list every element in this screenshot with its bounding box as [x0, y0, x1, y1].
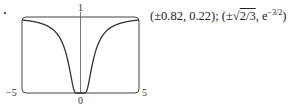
caption-radicand: 2/3	[240, 9, 256, 23]
x-tick-label-origin: 0	[78, 96, 83, 106]
caption-exact-mid: , e	[256, 9, 268, 23]
sqrt-symbol: √	[233, 9, 240, 23]
caption-exact-suffix: )	[282, 9, 286, 23]
y-tick-label-1: 1	[78, 3, 83, 13]
inflection-points-caption: (±0.82, 0.22); (±√2/3, e−3/2)	[150, 8, 286, 24]
function-plot	[0, 0, 150, 109]
caption-exact-prefix: (±	[222, 9, 233, 23]
caption-approx: (±0.82, 0.22);	[150, 9, 222, 23]
x-tick-label-min: −5	[6, 88, 17, 98]
caption-exponent: −3/2	[268, 8, 283, 17]
x-tick-label-max: 5	[142, 88, 147, 98]
